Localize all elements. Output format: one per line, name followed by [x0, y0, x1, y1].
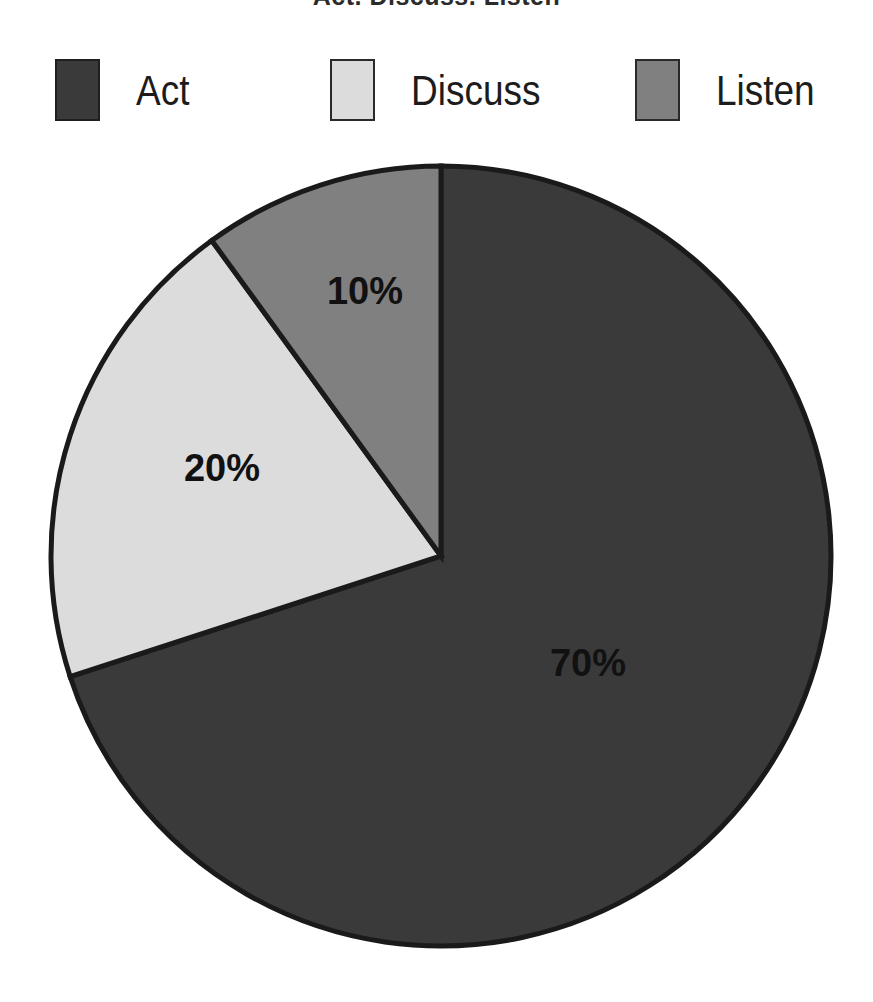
pie-slices: [51, 166, 831, 946]
pie-chart: 70%20%10%: [0, 0, 873, 1002]
pie-chart-svg: 70%20%10%: [0, 0, 873, 1002]
pie-slice-value-discuss: 20%: [184, 447, 260, 489]
pie-slice-value-act: 70%: [550, 642, 626, 684]
pie-slice-value-listen: 10%: [327, 270, 403, 312]
